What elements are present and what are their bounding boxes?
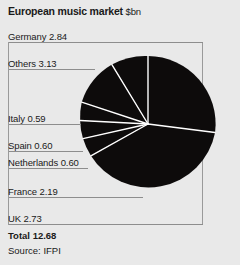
callout-label-others: Others 3.13 [8,58,57,69]
source-attribution: Source: IFPI [8,245,61,256]
callout-label-netherlands: Netherlands 0.60 [8,157,79,168]
leader-line-germany [9,42,203,43]
leader-line-france [9,197,143,198]
callout-label-france: France 2.19 [8,186,58,197]
callout-label-spain: Spain 0.60 [8,140,52,151]
callout-label-italy: Italy 0.59 [8,113,46,124]
leader-line-netherlands [9,168,88,169]
leader-line-spain [9,151,83,152]
leader-line-italy [9,124,81,125]
chart-container: European music market $bn Germany 2.84 O… [0,0,240,265]
leader-line-others [9,69,95,70]
leader-line-uk [9,224,203,225]
total-value: Total 12.68 [8,230,56,241]
callout-label-uk: UK 2.73 [8,213,42,224]
pie-slice-germany [148,56,216,133]
callout-label-germany: Germany 2.84 [8,31,67,42]
